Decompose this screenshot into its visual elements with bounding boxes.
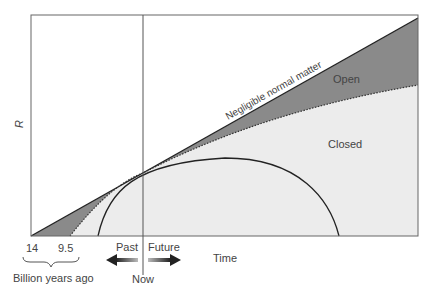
now-label: Now [132, 273, 154, 285]
closed-label: Closed [328, 138, 362, 150]
tick-label-14: 14 [26, 242, 38, 254]
y-axis-label: R [13, 120, 25, 128]
future-arrow-icon [148, 254, 181, 266]
past-label: Past [116, 241, 138, 253]
x-axis-label: Time [213, 252, 237, 264]
future-label: Future [148, 241, 180, 253]
brace-label: Billion years ago [13, 272, 94, 284]
past-arrow-icon [106, 254, 138, 266]
tick-label-9-5: 9.5 [58, 242, 73, 254]
expansion-diagram: R Negligible normal matter Open Closed 1… [0, 0, 431, 290]
brace-icon [23, 257, 79, 267]
open-label: Open [333, 73, 360, 85]
